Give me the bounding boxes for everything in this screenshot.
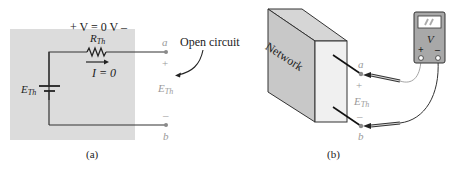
output-label-sub: Th (361, 100, 369, 109)
output-label-base: E (158, 82, 165, 94)
output-label-sub: Th (165, 87, 173, 96)
terminal-b-dot (164, 123, 168, 127)
probe-positive-icon (363, 60, 421, 82)
meter-plus-label: + (418, 45, 424, 55)
panel-a-circuit (10, 29, 203, 140)
jack-negative (436, 56, 441, 61)
terminal-a-label: a (358, 59, 364, 70)
terminal-a-dot (164, 50, 168, 54)
current-label: I = 0 (92, 67, 116, 79)
probe-negative-icon (363, 60, 438, 129)
source-label: ETh (21, 84, 36, 97)
caption-a: (a) (86, 149, 98, 160)
thevenin-diagram (0, 0, 455, 173)
output-voltage-label: ETh (354, 96, 369, 109)
terminal-b-dot (359, 124, 363, 128)
jack-positive (419, 56, 424, 61)
resistor-label-base: R (90, 32, 97, 44)
voltmeter-screen (418, 16, 441, 28)
meter-label: V (427, 34, 434, 45)
open-circuit-arrow-icon (178, 50, 203, 75)
caption-b: (b) (327, 149, 340, 160)
terminal-a-label: a (162, 37, 168, 48)
open-circuit-annotation: Open circuit (180, 36, 240, 48)
plus-label: + (356, 80, 362, 91)
terminal-b-label: b (163, 131, 169, 142)
source-label-sub: Th (28, 88, 36, 97)
output-label-base: E (354, 95, 361, 107)
minus-label: – (163, 110, 169, 121)
terminal-b-label: b (358, 131, 364, 142)
source-label-base: E (21, 83, 28, 95)
meter-minus-label: – (435, 45, 440, 55)
plus-label: + (162, 58, 168, 69)
output-voltage-label: ETh (158, 83, 173, 96)
terminal-a-dot (359, 72, 363, 76)
minus-label: – (357, 111, 363, 122)
resistor-label: RTh (90, 33, 105, 46)
network-box-front (315, 41, 347, 122)
voltage-label: + V = 0 V – (70, 21, 127, 33)
resistor-label-sub: Th (97, 37, 105, 46)
open-circuit-arrowhead-icon (175, 73, 181, 78)
